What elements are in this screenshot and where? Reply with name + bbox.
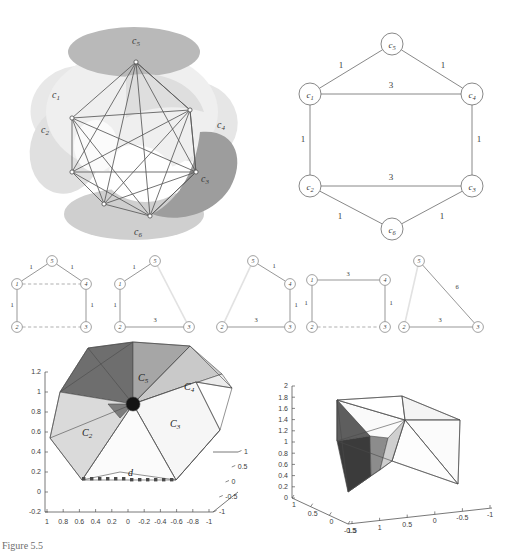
sub2-node-label-2: 2 xyxy=(119,324,122,330)
plot-left-ztick-mark-0 xyxy=(238,451,242,453)
subgraph-row-svg: 51423512354231423523 111111311331163 xyxy=(0,248,506,346)
plot-left-xtick-0: 1 xyxy=(45,518,49,525)
sub1-weight-5-4: 1 xyxy=(70,263,73,270)
hexagon-edge-c6-c3 xyxy=(402,191,463,224)
sphere-partition-panel: c5 c1 c2 c4 c3 c6 xyxy=(0,0,258,248)
hexagon-weight-c5-c4: 1 xyxy=(441,60,446,70)
sub2-edge-1-5 xyxy=(125,264,151,281)
sub1-weight-1-5: 1 xyxy=(29,263,32,270)
plot-left-ytick-0: 1.2 xyxy=(31,368,41,375)
plot-right-xtick-1: 0.5 xyxy=(308,510,318,517)
hexagon-weight-c4-c3: 1 xyxy=(477,134,482,144)
plot-left-xtick-1: 0.8 xyxy=(58,518,68,525)
sub3-node-label-5: 5 xyxy=(252,258,255,264)
sub5-edge-5-2 xyxy=(405,266,418,321)
plot-right-y-ticks: 21.81.61.41.210.80.60.40.20 xyxy=(278,382,295,501)
plot-left-xtick-3: 0.4 xyxy=(91,518,101,525)
sub2-weight-1-5: 1 xyxy=(132,263,135,270)
plot-left-ztick-mark-1 xyxy=(232,466,236,468)
sub5-edge-5-3 xyxy=(423,265,475,323)
plot-right-ztick-4: -0.5 xyxy=(456,514,468,521)
plot-right-ytick-6: 0.8 xyxy=(278,450,288,457)
plot-left-ytick-3: 0.6 xyxy=(31,428,41,435)
plot-right-ztick-3: 0 xyxy=(433,517,437,524)
plot-left-ztick-1: 0.5 xyxy=(238,463,248,470)
sub3-node-label-2: 2 xyxy=(221,324,224,330)
plot-left-xtick-10: -1 xyxy=(206,518,212,525)
sub1-node-label-4: 4 xyxy=(85,281,88,287)
sub2-weight-2-3: 3 xyxy=(153,316,156,323)
sub1-weight-1-2: 1 xyxy=(10,301,13,308)
plot-right-ytick-1: 1.8 xyxy=(278,394,288,401)
plot-right-xtick-mark-1 xyxy=(311,504,313,507)
sub4-weight-1-2: 1 xyxy=(304,299,307,306)
plot-left-ytick-7: -0.2 xyxy=(29,508,41,515)
hexagon-edges xyxy=(310,50,472,224)
sub1-edge-1-5 xyxy=(22,264,48,281)
hexagon-edge-c5-c4 xyxy=(401,50,462,88)
plot-right-ytick-4: 1.2 xyxy=(278,427,288,434)
plot-left-xtick-5: 0 xyxy=(126,518,130,525)
plot-left-ztick-3: -0.5 xyxy=(225,493,237,500)
plot-left-xtick-9: -0.8 xyxy=(187,518,199,525)
plot-right-ytick-3: 1.4 xyxy=(278,416,288,423)
figure-caption: Figure 5.5 xyxy=(2,540,43,559)
hexagon-graph-svg: c5c1c4c2c3c6 11311311 xyxy=(258,0,506,248)
plot-right-ztick-1: 1 xyxy=(378,524,382,531)
plot-right-xtick-0: 1 xyxy=(292,501,296,508)
plot-left-xtick-4: 0.2 xyxy=(107,518,117,525)
sub5-weight-5-3: 6 xyxy=(455,283,459,290)
sub4-node-label-1: 1 xyxy=(311,277,314,283)
plot-left-z-ticks: 10.50-0.5-1 xyxy=(213,448,248,515)
plot-left-xtick-8: -0.6 xyxy=(171,518,183,525)
hexagon-weight-c1-c2: 1 xyxy=(301,134,306,144)
sub2-node-label-1: 1 xyxy=(119,281,122,287)
sub1-node-label-2: 2 xyxy=(16,324,19,330)
plot-left-xtick-7: -0.4 xyxy=(154,518,166,525)
plot-right-xtick-2: 0 xyxy=(329,518,333,525)
hexagon-weight-c1-c4: 3 xyxy=(389,80,394,90)
subgraph-edge-weights: 111111311331163 xyxy=(10,262,459,323)
sub3-weight-5-4: 1 xyxy=(272,262,275,269)
plot-left-ztick-mark-3 xyxy=(219,496,223,498)
hexagon-nodes: c5c1c4c2c3c6 xyxy=(299,33,483,240)
sub4-node-label-3: 3 xyxy=(383,324,387,330)
plot-left-ztick-2: 0 xyxy=(232,478,236,485)
plot-left-x-ticks: 10.80.60.40.20-0.2-0.4-0.6-0.8-1 xyxy=(45,509,212,525)
plot-right-xtick-mark-2 xyxy=(329,512,331,515)
plot-left-ytick-6: 0 xyxy=(37,488,41,495)
plot-left-xtick-6: -0.2 xyxy=(138,518,150,525)
sub5-node-label-3: 3 xyxy=(476,324,480,330)
plot-left-ztick-4: -1 xyxy=(219,508,225,515)
hexagon-weight-c6-c3: 1 xyxy=(440,211,445,221)
hexagon-edge-c1-c5 xyxy=(319,50,382,89)
sub2-weight-1-2: 1 xyxy=(113,301,116,308)
plot-left-polyhedron xyxy=(50,342,232,480)
plot-right-ytick-0: 2 xyxy=(284,382,288,389)
sub2-edge-5-3 xyxy=(157,266,186,322)
sub4-node-label-2: 2 xyxy=(311,324,314,330)
plot-left-ztick-0: 1 xyxy=(244,448,248,455)
plot-left-svg: 1.210.80.60.40.20-0.2 10.80.60.40.20-0.2… xyxy=(0,346,258,542)
plot-left-ytick-5: 0.2 xyxy=(31,468,41,475)
sub5-node-label-2: 2 xyxy=(403,324,406,330)
hexagon-graph-panel: c5c1c4c2c3c6 11311311 xyxy=(258,0,506,248)
sub3-weight-2-3: 3 xyxy=(254,316,257,323)
sphere-regions xyxy=(19,27,250,240)
sub5-weight-2-3: 3 xyxy=(438,316,441,323)
plot-right-z-ticks: 1.510.50-0.5-1 xyxy=(347,505,493,534)
sub2-node-label-3: 3 xyxy=(187,324,191,330)
sub1-edge-5-4 xyxy=(56,264,81,281)
plot-right-ytick-5: 1 xyxy=(284,438,288,445)
sub4-node-label-4: 4 xyxy=(384,277,387,283)
sub3-edge-5-2 xyxy=(224,266,250,322)
hexagon-weight-c1-c5: 1 xyxy=(339,60,344,70)
hexagon-edge-weights: 11311311 xyxy=(301,60,482,221)
sub4-weight-1-4: 3 xyxy=(346,270,349,277)
plot-left-ytick-4: 0.4 xyxy=(31,448,41,455)
sub2-node-label-5: 5 xyxy=(154,258,157,264)
plot-right-svg: 21.81.61.41.210.80.60.40.20 10.50-0.5 1.… xyxy=(258,346,506,542)
subgraph-row-panel: 51423512354231423523 111111311331163 xyxy=(0,248,506,346)
sub5-node-label-5: 5 xyxy=(418,258,421,264)
sub3-weight-4-3: 1 xyxy=(294,301,297,308)
